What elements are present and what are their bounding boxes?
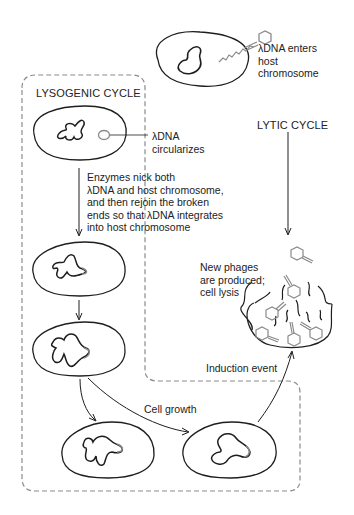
arrow-to-daughter-1 — [80, 379, 95, 420]
cell-lysogen — [33, 322, 125, 376]
lytic-cycle-title: LYTIC CYCLE — [257, 119, 328, 132]
label-circularizes: λDNA circularizes — [152, 130, 205, 155]
lambda-circle — [99, 131, 110, 140]
cell-circularized — [34, 106, 148, 160]
label-cell-growth: Cell growth — [144, 403, 197, 416]
daughter-cell-2 — [183, 422, 276, 478]
cell-integrating — [33, 242, 125, 296]
infected-cell — [156, 31, 271, 86]
host-chromosome — [58, 120, 85, 140]
host-chromosome — [178, 47, 201, 74]
label-integration: Enzymes nick both λDNA and host chromoso… — [87, 171, 224, 234]
label-dna-enters: λDNA enters host chromosome — [258, 42, 319, 80]
lysogenic-cycle-title: LYSOGENIC CYCLE — [36, 87, 141, 100]
daughter-cell-1 — [62, 422, 154, 478]
label-induction: Induction event — [206, 362, 277, 375]
label-lysis: New phages are produced; cell lysis — [200, 261, 265, 299]
